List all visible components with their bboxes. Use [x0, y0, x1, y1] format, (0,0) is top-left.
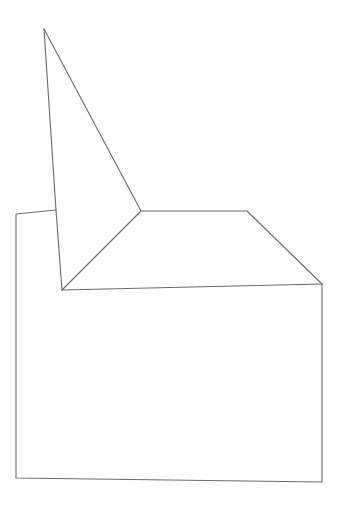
diagram-canvas	[0, 0, 344, 505]
background	[0, 0, 344, 505]
line-drawing	[0, 0, 344, 505]
